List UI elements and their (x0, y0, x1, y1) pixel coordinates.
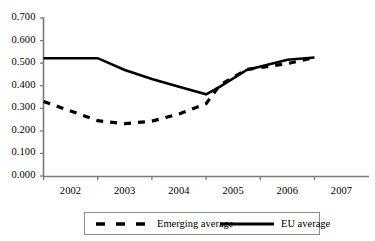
y-axis-tick-label: 0.100 (0, 146, 36, 157)
y-axis-tick-label: 0.300 (0, 101, 36, 112)
y-axis-tick-label: 0.600 (0, 34, 36, 45)
y-axis-tick-label: 0.000 (0, 169, 36, 180)
y-axis-tick-label: 0.200 (0, 124, 36, 135)
series-line-eu-average (44, 58, 315, 95)
x-axis-tick-label: 2007 (316, 185, 368, 196)
chart-legend: Emerging average EU average (84, 212, 320, 235)
y-axis-tick-label: 0.500 (0, 56, 36, 67)
legend-swatch-dashed (95, 218, 151, 230)
x-axis-tick-label: 2005 (207, 185, 259, 196)
chart-plot-area (0, 0, 375, 241)
y-axis-tick-label: 0.400 (0, 79, 36, 90)
x-axis-tick-label: 2004 (153, 185, 205, 196)
legend-label-eu-average: EU average (281, 218, 330, 229)
legend-item-eu-average[interactable]: EU average (219, 213, 330, 234)
y-axis-tick-label: 0.700 (0, 11, 36, 22)
x-axis-tick-label: 2002 (45, 185, 97, 196)
series-line-emerging-average (44, 58, 315, 124)
legend-item-emerging-average[interactable]: Emerging average (95, 213, 233, 234)
legend-swatch-solid (219, 218, 275, 230)
chart-container: 0.7000.6000.5000.4000.3000.2000.1000.000… (0, 0, 375, 241)
x-axis-tick-label: 2003 (99, 185, 151, 196)
x-axis-tick-label: 2006 (261, 185, 313, 196)
